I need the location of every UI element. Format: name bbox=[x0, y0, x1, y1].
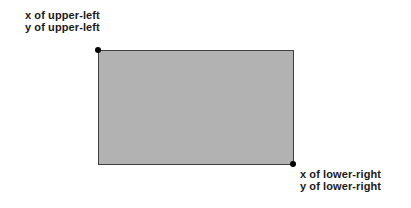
lower-right-y-label: y of lower-right bbox=[300, 181, 381, 193]
upper-left-y-label: y of upper-left bbox=[25, 22, 100, 34]
lower-right-point bbox=[290, 161, 296, 167]
lower-right-label: x of lower-right y of lower-right bbox=[300, 169, 381, 192]
lower-right-x-label: x of lower-right bbox=[300, 169, 381, 181]
upper-left-label: x of upper-left y of upper-left bbox=[25, 10, 100, 33]
upper-left-point bbox=[95, 47, 101, 53]
rectangle-coordinates-diagram: x of upper-left y of upper-left x of low… bbox=[0, 0, 411, 208]
rectangle bbox=[98, 50, 294, 165]
upper-left-x-label: x of upper-left bbox=[25, 10, 100, 22]
